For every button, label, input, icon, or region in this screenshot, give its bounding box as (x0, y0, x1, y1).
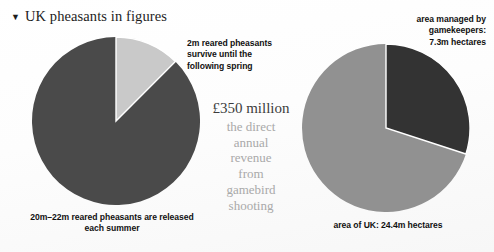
page-title: ▼ UK pheasants in figures (11, 8, 167, 25)
triangle-down-icon: ▼ (11, 13, 20, 22)
pie-chart-pheasants (32, 37, 200, 205)
annotation-uk-area: area of UK: 24.4m hectares (300, 220, 476, 231)
page-title-label: UK pheasants in figures (25, 8, 167, 25)
revenue-statement: £350 million the direct annual revenue f… (196, 100, 306, 214)
revenue-line-1: annual (196, 135, 306, 151)
revenue-headline: £350 million (196, 100, 306, 118)
annotation-gamekeepers: area managed by gamekeepers: 7.3m hectar… (326, 14, 486, 48)
revenue-line-3: from (196, 166, 306, 182)
revenue-line-2: revenue (196, 150, 306, 166)
revenue-line-5: shooting (196, 198, 306, 214)
revenue-line-0: the direct (196, 119, 306, 135)
revenue-line-4: gamebird (196, 182, 306, 198)
annotation-released: 20m–22m reared pheasants are released ea… (8, 212, 216, 235)
annotation-survive: 2m reared pheasants survive until the fo… (187, 38, 317, 72)
pie-chart-land-area (302, 44, 470, 212)
infographic-panel: ▼ UK pheasants in figures 2m reared phea… (0, 0, 494, 252)
